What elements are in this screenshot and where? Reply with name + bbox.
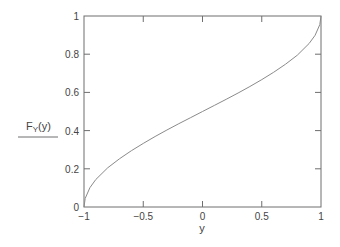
y-tick-label: 0.6 — [65, 87, 79, 98]
y-axis-tick-labels: 00.20.40.60.81 — [65, 11, 79, 213]
cdf-chart: 00.20.40.60.81 −1−0.500.51 y FY(y) — [0, 0, 340, 247]
y-tick-label: 1 — [73, 11, 79, 22]
x-tick-label: 0.5 — [255, 211, 269, 222]
x-tick-label: 1 — [318, 211, 324, 222]
y-tick-label: 0.2 — [65, 164, 79, 175]
y-axis-label: FY(y) — [18, 120, 58, 137]
x-tick-label: −1 — [78, 211, 90, 222]
x-tick-label: 0 — [200, 211, 206, 222]
y-tick-label: 0.4 — [65, 126, 79, 137]
svg-text:FY(y): FY(y) — [26, 120, 51, 134]
x-axis-label: y — [199, 222, 205, 234]
y-tick-label: 0.8 — [65, 49, 79, 60]
x-tick-label: −0.5 — [133, 211, 153, 222]
x-axis-tick-labels: −1−0.500.51 — [78, 211, 324, 222]
y-axis-label-arg: (y) — [38, 120, 51, 132]
cdf-curve — [84, 16, 321, 207]
